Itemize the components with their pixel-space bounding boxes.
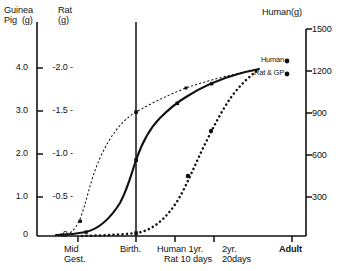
- legend-marker-human: [285, 59, 290, 64]
- guinea-pig-axis-ticks: [37, 68, 43, 197]
- series-guinea-pig-markers: [134, 129, 213, 235]
- series-rat-curve: [56, 69, 259, 235]
- growth-curve-figure: GuineaPig (g) Rat(g) Human(g) 4.0 3.0 2.…: [0, 0, 346, 271]
- legend-marker-rat-gp: [285, 72, 290, 77]
- series-human-curve: [62, 69, 259, 235]
- series-guinea-pig-curve: [82, 69, 259, 236]
- x-axis-ticks: [78, 236, 292, 242]
- human-axis-ticks: [306, 29, 312, 197]
- plot-area: [0, 0, 346, 271]
